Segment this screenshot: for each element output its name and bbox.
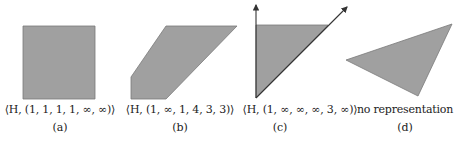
square-polygon-a: [23, 26, 95, 99]
sublabel-a: (a): [52, 121, 67, 134]
figure-canvas: [0, 0, 466, 142]
sublabel-b: (b): [172, 121, 188, 134]
sublabel-c: (c): [273, 121, 288, 134]
hexagon-polygon-b: [131, 26, 237, 99]
caption-d: no representation: [357, 103, 453, 116]
caption-b: ⟨H, (1, ∞, 1, 4, 3, 3)⟩: [126, 103, 234, 116]
sublabel-d: (d): [397, 121, 413, 134]
triangle-polygon-d: [346, 24, 452, 96]
caption-a: ⟨H, (1, 1, 1, 1, ∞, ∞)⟩: [5, 103, 115, 116]
caption-c: ⟨H, (1, ∞, ∞, ∞, 3, ∞)⟩: [243, 103, 358, 116]
